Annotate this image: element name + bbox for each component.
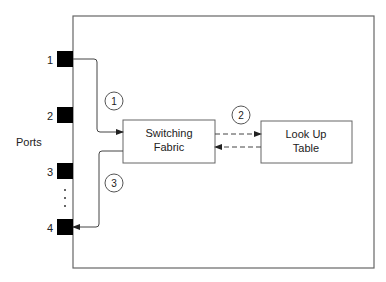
port-4-label: 4 xyxy=(47,222,53,234)
step-1-marker: 1 xyxy=(105,92,123,110)
ellipsis-dots xyxy=(64,189,66,207)
step-3-marker: 3 xyxy=(105,174,123,192)
step-3-label: 3 xyxy=(111,178,117,189)
ports-label: Ports xyxy=(16,136,42,148)
lookup-table-line1: Look Up xyxy=(286,128,327,140)
port-3-label: 3 xyxy=(47,166,53,178)
port-1-label: 1 xyxy=(47,54,53,66)
port-2: 2 xyxy=(47,107,73,123)
switching-fabric-line2: Fabric xyxy=(154,141,185,153)
lookup-table-line2: Table xyxy=(293,142,319,154)
switching-fabric-box: Switching Fabric xyxy=(123,120,215,163)
step-2-label: 2 xyxy=(238,110,244,121)
port-3: 3 xyxy=(47,163,73,179)
step-1-label: 1 xyxy=(111,96,117,107)
lookup-table-box: Look Up Table xyxy=(261,121,352,163)
switching-fabric-line1: Switching xyxy=(145,127,192,139)
port-1: 1 xyxy=(47,51,73,67)
switch-diagram: Ports 1 2 3 4 Switching Fabric Look Up T… xyxy=(0,0,386,282)
port-2-label: 2 xyxy=(47,110,53,122)
port-4: 4 xyxy=(47,219,73,235)
step-2-marker: 2 xyxy=(232,106,250,124)
